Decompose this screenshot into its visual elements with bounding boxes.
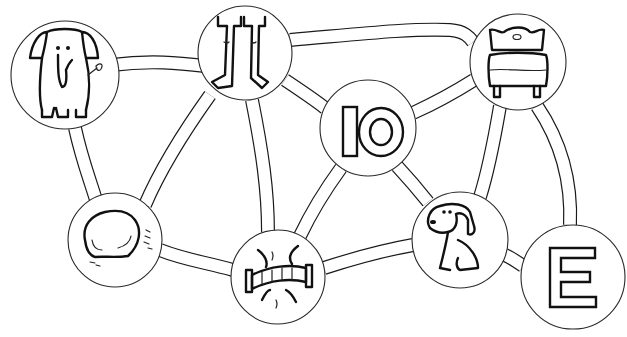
number-ten: 10 bbox=[343, 107, 403, 156]
node-legs[interactable] bbox=[198, 6, 292, 100]
letter-e: E bbox=[550, 248, 596, 307]
node-bed[interactable] bbox=[470, 14, 566, 110]
node-e[interactable]: E bbox=[521, 225, 625, 329]
path-network-diagram: 10 bbox=[0, 0, 627, 337]
node-dog[interactable] bbox=[412, 192, 508, 288]
node-rock[interactable] bbox=[68, 193, 162, 287]
diagram-canvas: 10 bbox=[0, 0, 627, 337]
node-bridge[interactable] bbox=[231, 230, 325, 324]
node-elephant[interactable] bbox=[11, 21, 119, 129]
node-ten[interactable]: 10 bbox=[320, 80, 416, 176]
